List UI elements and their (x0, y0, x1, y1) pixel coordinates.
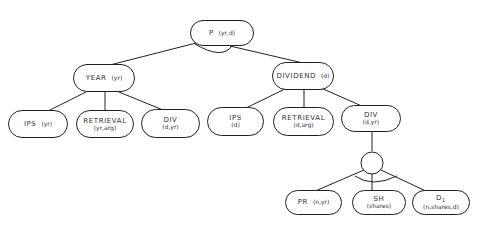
and-circle-arc (355, 176, 397, 182)
node-div-retrieval: RETRIEVAL (d,arg) (273, 107, 334, 136)
node-sh: SH (shares) (352, 190, 406, 215)
node-pr: PR(n,yr) (285, 190, 342, 215)
node-div-ips: IPS (d) (207, 107, 264, 136)
node-year-retrieval: RETRIEVAL (yr,arg) (76, 110, 134, 138)
node-root-p: P(yr,d) (190, 20, 254, 46)
node-d1: D1 (n,shares,d) (412, 190, 470, 215)
node-dividend: DIVIDEND(d) (272, 62, 334, 90)
node-year-ips: IPS(yr) (8, 110, 68, 138)
node-div-div: DIV (d,yr) (341, 105, 401, 132)
and-node-circle (361, 152, 383, 174)
node-year: YEAR(yr) (73, 64, 135, 92)
node-year-div: DIV (d,yr) (141, 109, 200, 138)
